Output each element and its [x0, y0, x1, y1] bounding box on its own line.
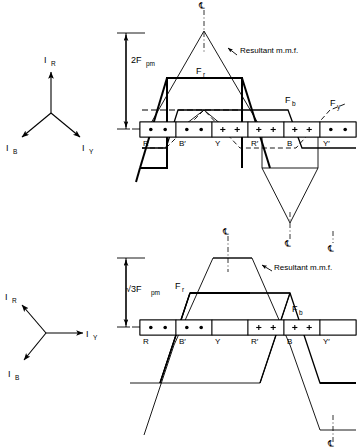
top-scale-bar: 2F pm [117, 33, 155, 129]
top-slot-label-Yp: Y′ [323, 139, 330, 148]
bottom-fr-label: F [175, 281, 181, 291]
bottom-resultant-mmf-curve [144, 258, 320, 435]
top-slot-mark-dot [343, 128, 347, 132]
bottom-slot-cell-R [140, 320, 176, 335]
centreline3-symbol: ℄ [327, 244, 334, 254]
phasor2-label-iy-sub: Y [93, 334, 98, 341]
resultant-leader-line [228, 48, 237, 55]
bottom-scale-label-sub: pm [151, 289, 160, 297]
phasor2-label-iy: I [86, 329, 89, 339]
bottom-slot-cell-Bp [176, 320, 212, 335]
phasor-label-ir: I [44, 55, 47, 65]
centreline-symbol-top: ℄ [198, 1, 205, 11]
top-diagram: I R I B I Y 2F pm ℄ ℄ Resultant m [6, 1, 356, 249]
top-fr-label-sub: r [203, 71, 206, 78]
top-slot-cell-R [140, 122, 176, 137]
bottom-centreline-right: ℄ [327, 231, 334, 254]
bottom-slot-label-R: R [143, 337, 149, 346]
top-slot-label-Rp: R′ [251, 139, 259, 148]
bottom-slot-label-Yp: Y′ [323, 337, 330, 346]
mmf-distribution-figure: I R I B I Y 2F pm ℄ ℄ Resultant m [0, 0, 361, 448]
bottom-fb-label: F [292, 304, 298, 314]
top-slot-label-Y: Y [215, 139, 221, 148]
bottom-slot-mark-dot [163, 326, 167, 330]
bottom-scale-label: √3F [126, 284, 142, 294]
top-slot-mark-dot [199, 128, 203, 132]
phasor2-label-ib: I [8, 369, 11, 379]
top-slot-mark-dot [149, 128, 153, 132]
bottom-phasor-diagram: I R I Y I B [5, 292, 98, 381]
top-phasor-diagram: I R I B I Y [6, 55, 94, 155]
phasor-label-ir-sub: R [51, 60, 56, 67]
bottom-slot-label-B: B [287, 337, 292, 346]
phasor2-label-ir-sub: R [12, 297, 17, 304]
bottom-resultant-label: Resultant m.m.f. [274, 263, 332, 272]
phasor-vector-iy [51, 113, 80, 137]
bottom-slot-cell-Rp [248, 320, 284, 335]
centreline2-symbol-top: ℄ [222, 227, 229, 237]
top-slot-cell-B [284, 122, 320, 137]
phasor-label-iy-sub: Y [89, 148, 94, 155]
top-scale-label-sub: pm [146, 60, 155, 68]
phasor-label-ib: I [6, 143, 9, 153]
top-slot-label-B: B [287, 139, 292, 148]
resultant2-leader-line [262, 265, 272, 271]
top-slot-cell-Bp [176, 122, 212, 137]
top-slot-mark-dot [163, 128, 167, 132]
bottom-slot-label-Bp: B′ [179, 337, 186, 346]
phasor2-vector-ir [22, 305, 46, 333]
top-slot-label-Bp: B′ [179, 139, 186, 148]
top-slot-bar: RB′YR′BY′ [132, 122, 356, 148]
bottom-fr-curve [130, 293, 290, 383]
top-fb-label: F [285, 95, 291, 105]
phasor-vector-ib [22, 113, 51, 137]
top-fy-label: F [330, 98, 336, 108]
phasor2-label-ir: I [5, 292, 8, 302]
top-fr-label: F [196, 66, 202, 76]
top-centreline-upper: ℄ [198, 1, 205, 52]
bottom-scale-bar: √3F pm [117, 258, 160, 327]
phasor-label-iy: I [82, 143, 85, 153]
bottom-fr-label-sub: r [182, 286, 185, 293]
top-fy-label-sub: y [337, 103, 341, 111]
centreline-symbol-bottom: ℄ [284, 239, 291, 249]
bottom-slot-cell-Y [212, 320, 248, 335]
bottom-slot-mark-dot [149, 326, 153, 330]
top-fb-label-sub: b [292, 100, 296, 107]
bottom-slot-mark-dot [199, 326, 203, 330]
bottom-fb-label-sub: b [299, 309, 303, 316]
bottom-slot-label-Y: Y [215, 337, 221, 346]
bottom-slot-mark-dot [185, 326, 189, 330]
bottom-slot-cell-B [284, 320, 320, 335]
top-slot-cell-Y [212, 122, 248, 137]
bottom-diagram: I R I Y I B √3F pm ℄ ℄ ℄ [5, 227, 356, 448]
top-slot-cell-Rp [248, 122, 284, 137]
top-slot-cell-Yp [320, 122, 356, 137]
phasor-label-ib-sub: B [13, 148, 17, 155]
top-slot-mark-dot [185, 128, 189, 132]
top-slot-mark-dot [329, 128, 333, 132]
bottom-fb-inner-right [260, 293, 290, 383]
bottom-slot-bar: RB′YR′BY′ [132, 320, 356, 346]
bottom-slot-label-Rp: R′ [251, 337, 259, 346]
centreline4-symbol: ℄ [327, 439, 334, 448]
top-scale-label: 2F [131, 55, 142, 65]
top-resultant-label: Resultant m.m.f. [240, 46, 298, 55]
top-slot-label-R: R [143, 139, 149, 148]
top-fr-tail-left [136, 168, 140, 182]
bottom-centreline-upper: ℄ [222, 227, 229, 272]
phasor2-label-ib-sub: B [15, 374, 19, 381]
phasor2-vector-ib [24, 333, 46, 360]
bottom-slot-cell-Yp [320, 320, 356, 335]
